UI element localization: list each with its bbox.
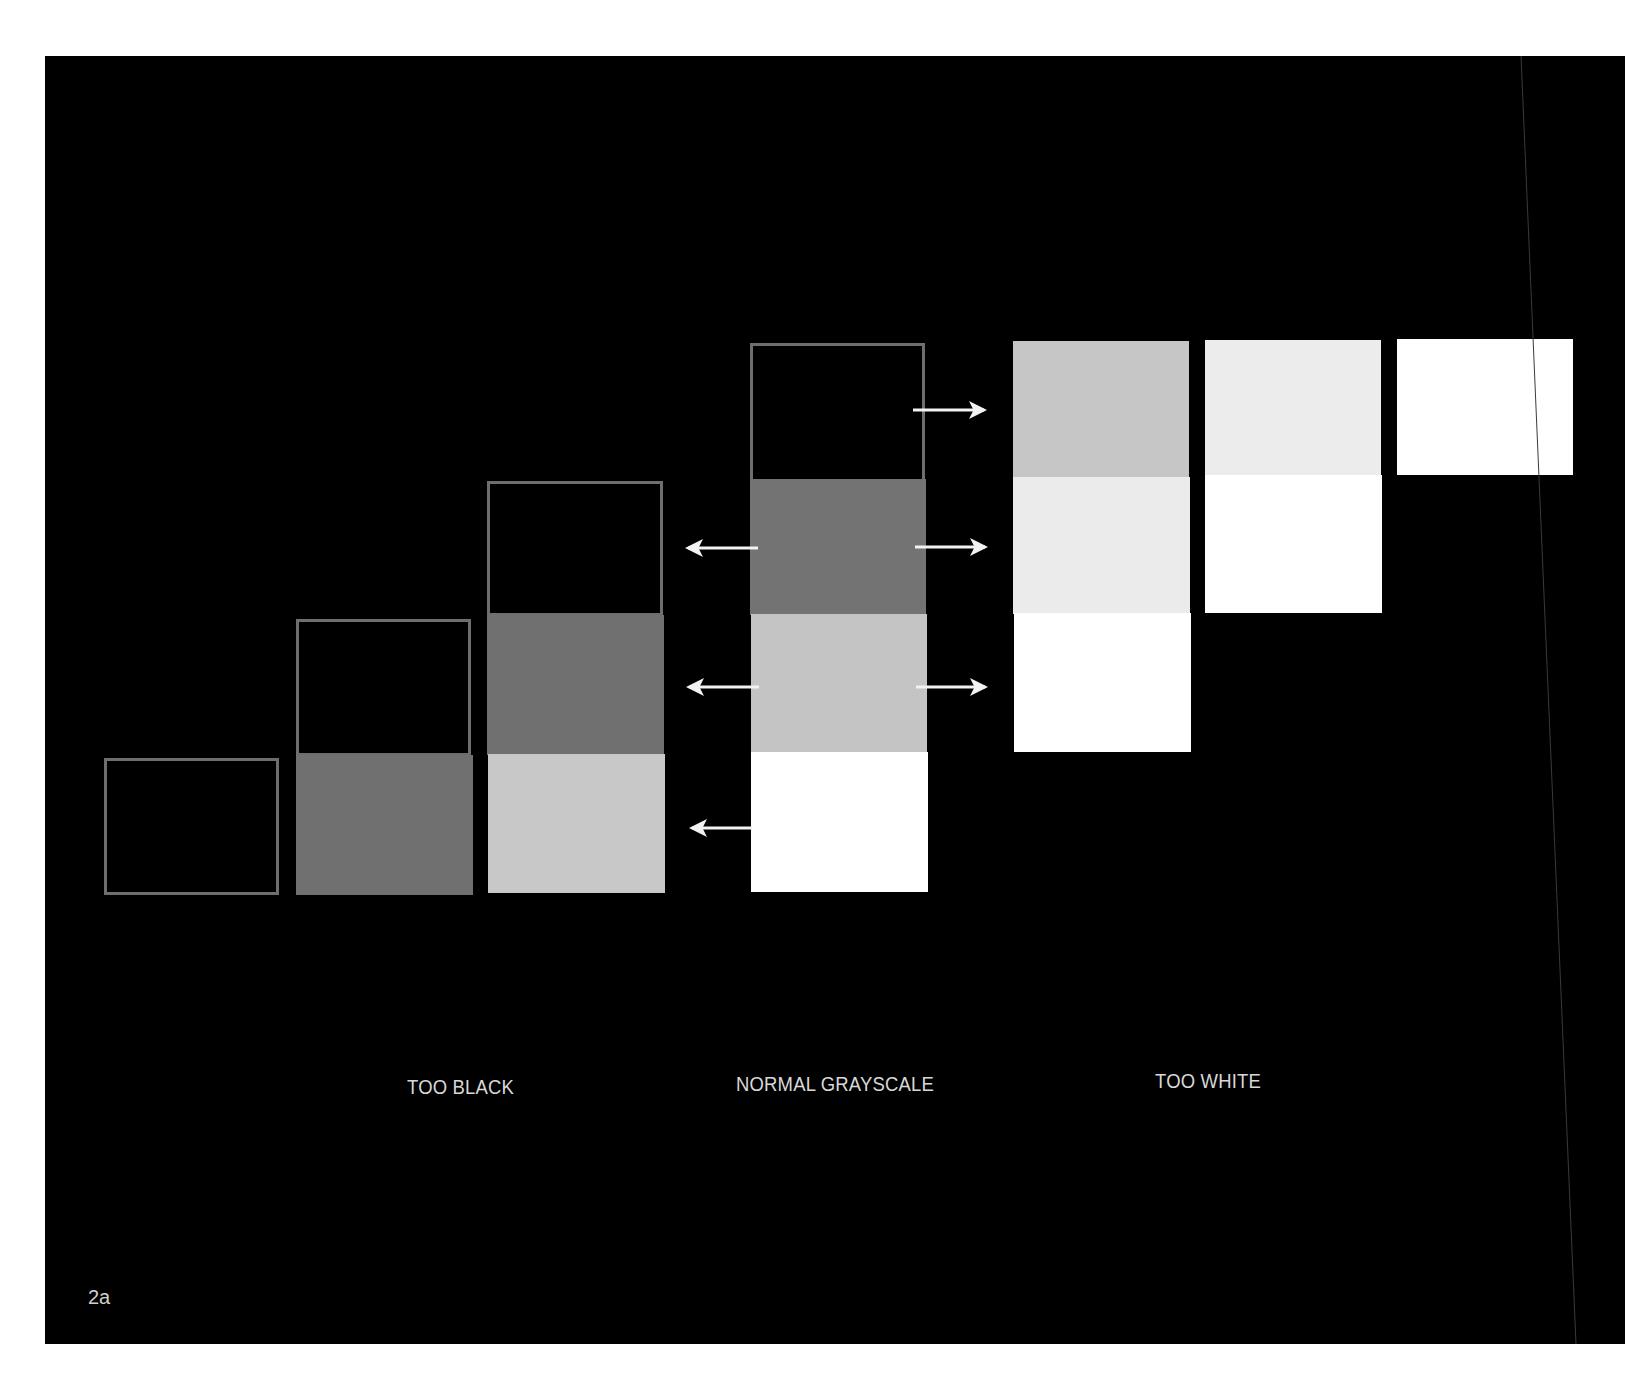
swatch-white-col7 [1397,339,1573,475]
swatch-light-gray-col3 [488,754,665,893]
page-label: 2a [88,1286,110,1309]
swatch-white-col6 [1205,475,1382,613]
swatch-dark-gray-col3 [487,615,664,755]
swatch-near-white-col5 [1013,477,1190,614]
swatch-light-gray-col5 [1013,341,1189,478]
swatch-light-gray-col4 [751,614,927,753]
swatch-black-col2 [296,619,471,756]
swatch-white-col4 [751,752,928,892]
label-too-white: TOO WHITE [1155,1069,1261,1093]
swatch-black-col4 [750,343,925,482]
label-normal-grayscale: NORMAL GRAYSCALE [736,1072,934,1096]
swatch-near-white-col6 [1205,340,1381,476]
swatch-black-col1 [104,758,279,895]
swatch-white-col5 [1014,613,1191,752]
swatch-dark-gray-col2 [296,755,473,895]
swatch-black-col3 [487,481,663,616]
swatch-dark-gray-col4 [750,479,926,615]
label-too-black: TOO BLACK [407,1075,514,1099]
